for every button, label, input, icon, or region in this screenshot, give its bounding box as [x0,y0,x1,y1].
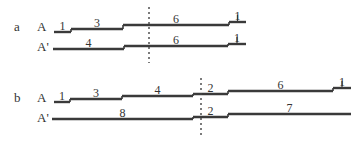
segment-length-label: 1 [60,19,66,33]
panel-label: a [14,19,20,34]
segment-length-label: 2 [208,81,214,95]
row-A-prime: A'827 [37,101,351,125]
row-A: A1361 [37,9,246,34]
segment-length-label: 6 [278,78,284,92]
row-A: A134261 [37,75,351,105]
segment-length-label: 1 [59,89,65,103]
segment-length-label: 4 [155,83,161,97]
segment-length-label: 1 [234,31,240,45]
segment-length-label: 3 [93,86,99,100]
panel-b: bA134261A'827 [14,75,351,135]
segment-length-label: 8 [120,106,126,120]
row-label: A [37,19,47,34]
segment-length-label: 6 [173,12,179,26]
segment-length-label: 6 [173,33,179,47]
segment-length-label: 2 [208,104,214,118]
segment-length-label: 4 [86,36,92,50]
segment-length-label: 1 [235,9,241,23]
segment-length-label: 1 [339,75,345,89]
panel-label: b [14,90,21,105]
segment-diagram: aA1361A'461bA134261A'827 [0,0,361,141]
row-label: A' [37,39,49,54]
segment-length-label: 3 [94,16,100,30]
row-label: A [37,90,47,105]
panel-a: aA1361A'461 [14,7,246,63]
row-label: A' [37,110,49,125]
segment-length-label: 7 [287,101,293,115]
row-A-prime: A'461 [37,31,246,54]
